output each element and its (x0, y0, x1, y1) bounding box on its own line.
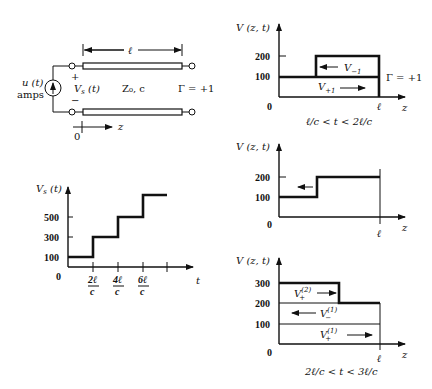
svg-text:V(1)+: V(1)+ (320, 327, 337, 343)
minus-sign: − (71, 95, 79, 106)
svg-text:300: 300 (255, 278, 270, 289)
svg-text:V(2)+: V(2)+ (294, 286, 311, 302)
length-label: ℓ (128, 45, 132, 56)
svg-text:V+1: V+1 (318, 81, 336, 95)
svg-text:c: c (115, 286, 120, 297)
line-conductor-top (83, 63, 182, 69)
svg-text:500: 500 (44, 212, 59, 223)
svg-text:100: 100 (44, 252, 59, 263)
svg-text:ℓ: ℓ (377, 101, 381, 112)
length-dimension: ℓ (83, 44, 182, 56)
terminal-top-right (189, 63, 195, 69)
svg-text:100: 100 (255, 319, 270, 330)
svg-text:c: c (90, 286, 95, 297)
svg-text:V−1: V−1 (344, 62, 362, 76)
svg-text:Γ = +1: Γ = +1 (386, 72, 422, 83)
svg-text:2ℓ/c < t < 3ℓ/c: 2ℓ/c < t < 3ℓ/c (304, 366, 378, 377)
line-label: Z₀, c (122, 83, 145, 94)
svg-text:200: 200 (255, 51, 270, 62)
vs-ylabel: Vs (t) (36, 183, 62, 196)
snapshot-chart-1: V (z, t) 200 100 0 ℓ z V−1 V+1 Γ = +1 ℓ/… (236, 22, 422, 127)
svg-text:100: 100 (255, 192, 270, 203)
svg-text:z: z (401, 222, 408, 233)
xtick-6l-c: 6ℓ c (138, 274, 149, 297)
svg-text:2ℓ: 2ℓ (87, 274, 97, 285)
vs-chart: Vs (t) 500 300 100 0 2ℓ c 4ℓ c 6ℓ c t (36, 183, 201, 297)
snapshot-chart-3: V (z, t) 300 200 100 0 ℓ z V(2)+ V(1)− V… (236, 255, 408, 377)
svg-text:6ℓ: 6ℓ (138, 274, 147, 285)
svg-text:0: 0 (56, 271, 61, 282)
svg-text:V (z, t): V (z, t) (236, 22, 270, 33)
svg-text:0: 0 (267, 101, 272, 112)
svg-text:100: 100 (255, 71, 270, 82)
svg-text:z: z (401, 349, 408, 360)
svg-text:0: 0 (267, 347, 272, 358)
svg-text:ℓ: ℓ (377, 228, 381, 239)
vs-staircase (68, 195, 167, 257)
svg-text:200: 200 (255, 298, 270, 309)
svg-text:c: c (140, 286, 145, 297)
z-origin: 0 (74, 131, 80, 142)
svg-text:200: 200 (255, 172, 270, 183)
svg-text:ℓ: ℓ (377, 353, 381, 364)
source-label: u (t) (22, 77, 44, 88)
circuit-diagram: ℓ u (t) amps + − Vs (t) Z₀, c Γ = +1 (17, 44, 214, 142)
snapshot-chart-2: V (z, t) 200 100 0 ℓ z (236, 141, 408, 239)
current-source: u (t) amps (17, 66, 69, 112)
line-conductor-bottom (83, 109, 182, 115)
svg-text:V(1)−: V(1)− (320, 306, 337, 322)
z-label: z (117, 121, 124, 132)
terminal-top-left (69, 63, 75, 69)
svg-text:V (z, t): V (z, t) (236, 255, 270, 266)
source-units: amps (17, 89, 44, 100)
svg-text:ℓ/c < t < 2ℓ/c: ℓ/c < t < 2ℓ/c (306, 116, 373, 127)
diagram-canvas: ℓ u (t) amps + − Vs (t) Z₀, c Γ = +1 (0, 0, 432, 389)
svg-text:z: z (401, 102, 408, 113)
terminal-bottom-right (189, 109, 195, 115)
svg-text:300: 300 (44, 232, 59, 243)
terminal-bottom-left (69, 109, 75, 115)
svg-text:V (z, t): V (z, t) (236, 141, 270, 152)
xtick-4l-c: 4ℓ c (112, 274, 124, 297)
plus-sign: + (71, 71, 79, 82)
svg-text:t: t (196, 275, 201, 286)
svg-text:4ℓ: 4ℓ (112, 274, 122, 285)
svg-text:0: 0 (267, 219, 272, 230)
gamma-label: Γ = +1 (178, 83, 214, 94)
xtick-2l-c: 2ℓ c (87, 274, 99, 297)
